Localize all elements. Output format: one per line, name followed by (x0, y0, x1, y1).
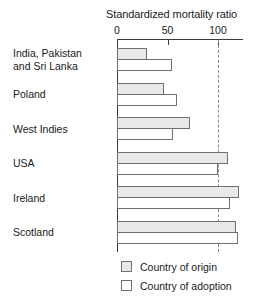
legend-item-adoption[interactable]: Country of adoption (121, 276, 232, 295)
x-tick-label-50: 50 (162, 24, 174, 36)
x-tick-label-100: 100 (209, 24, 227, 36)
chart-legend: Country of origin Country of adoption (121, 257, 232, 295)
legend-label-origin: Country of origin (140, 261, 217, 273)
legend-swatch-origin-icon (121, 261, 132, 272)
category-label-0: India, Pakistan and Sri Lanka (13, 47, 82, 73)
category-label-2: West Indies (13, 123, 68, 136)
legend-item-origin[interactable]: Country of origin (121, 257, 232, 276)
bar-adoption-2 (117, 128, 173, 140)
legend-swatch-adoption-icon (121, 280, 132, 291)
mortality-ratio-bar-chart: Standardized mortality ratio 050100 Indi… (0, 0, 264, 299)
bar-adoption-3 (117, 163, 218, 175)
x-tick-0 (117, 40, 118, 45)
legend-label-adoption: Country of adoption (140, 280, 232, 292)
bar-adoption-0 (117, 59, 172, 71)
x-tick-label-0: 0 (114, 24, 120, 36)
category-label-4: Ireland (13, 192, 45, 205)
category-label-5: Scotland (13, 226, 54, 239)
category-label-1: Poland (13, 88, 46, 101)
bar-adoption-1 (117, 94, 177, 106)
category-label-3: USA (13, 157, 35, 170)
bar-adoption-4 (117, 197, 230, 209)
x-axis-line (117, 39, 243, 40)
bar-adoption-5 (117, 232, 238, 244)
x-tick-50 (168, 40, 169, 45)
chart-title: Standardized mortality ratio (106, 8, 237, 21)
